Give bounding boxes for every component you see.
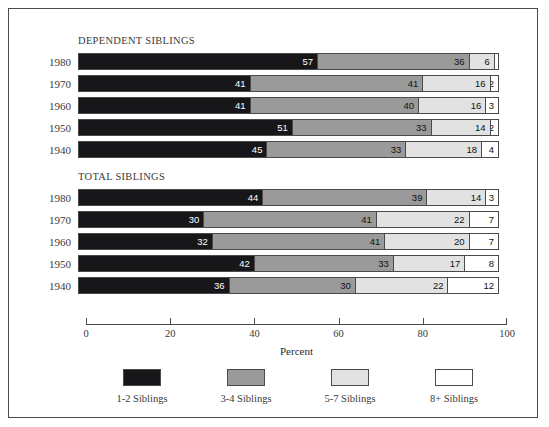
bar-segment: 16 (423, 75, 490, 92)
bar-segment: 41 (78, 75, 251, 92)
legend-item[interactable]: 1-2 Siblings (90, 369, 194, 404)
stacked-bar: 4439143 (78, 189, 499, 206)
stacked-bar: 3041227 (78, 211, 499, 228)
panel-title-total-siblings: TOTAL SIBLINGS (78, 171, 165, 182)
x-axis-tick-label: 20 (165, 328, 176, 339)
legend-swatch (435, 369, 473, 386)
bar-segment-value: 30 (340, 281, 355, 291)
x-axis-tick (86, 318, 87, 324)
figure: DEPENDENT SIBLINGS 198057366119704141162… (0, 0, 549, 427)
bar-segment-value: 6 (484, 57, 493, 67)
bar-segment-value: 30 (189, 215, 204, 225)
bar-segment: 8 (465, 255, 499, 272)
bar-segment-value: 17 (450, 259, 465, 269)
bar-segment: 33 (255, 255, 394, 272)
bar-segment: 36 (78, 277, 230, 294)
legend-swatch (123, 369, 161, 386)
bar-segment-value: 41 (408, 79, 423, 89)
bar-row: 194036302212 (78, 277, 499, 294)
bar-segment-value: 22 (433, 281, 448, 291)
stacked-bar: 4233178 (78, 255, 499, 272)
bar-row-year-label: 1980 (49, 192, 71, 204)
bar-segment: 20 (385, 233, 469, 250)
bar-segment: 4 (482, 141, 499, 158)
bar-segment-value: 1 (495, 57, 498, 67)
legend-item[interactable]: 3-4 Siblings (194, 369, 298, 404)
stacked-bar: 4141162 (78, 75, 499, 92)
bar-segment-value: 33 (378, 259, 393, 269)
legend-item[interactable]: 8+ Siblings (402, 369, 506, 404)
bar-segment-value: 36 (214, 281, 229, 291)
bar-row: 19804439143 (78, 189, 499, 206)
bar-segment: 33 (293, 119, 432, 136)
bar-segment: 41 (251, 75, 424, 92)
bar-segment: 12 (448, 277, 499, 294)
bar-segment: 39 (263, 189, 427, 206)
bar-segment: 30 (230, 277, 356, 294)
legend-label: 3-4 Siblings (194, 393, 298, 404)
bar-row-year-label: 1950 (49, 258, 71, 270)
bar-row-year-label: 1980 (49, 56, 71, 68)
bar-segment-value: 3 (489, 101, 498, 111)
x-axis-tick-label: 0 (83, 328, 88, 339)
bar-segment: 57 (78, 53, 318, 70)
x-axis-tick-label: 100 (499, 328, 515, 339)
bar-segment: 22 (356, 277, 449, 294)
x-axis-tick-label: 40 (249, 328, 260, 339)
stacked-bar: 4140163 (78, 97, 499, 114)
bar-segment-value: 39 (412, 193, 427, 203)
bar-segment: 2 (491, 119, 499, 136)
x-axis-tick (506, 318, 507, 324)
bar-row-year-label: 1940 (49, 144, 71, 156)
bar-segment: 14 (432, 119, 491, 136)
bar-segment-value: 41 (235, 79, 250, 89)
bar-row-year-label: 1960 (49, 236, 71, 248)
stacked-bar: 573661 (78, 53, 499, 70)
bar-segment-value: 16 (475, 79, 490, 89)
bar-segment: 36 (318, 53, 470, 70)
bar-row: 1980573661 (78, 53, 499, 70)
bar-segment-value: 42 (239, 259, 254, 269)
stacked-bar: 5133142 (78, 119, 499, 136)
legend-label: 8+ Siblings (402, 393, 506, 404)
x-axis-tick (423, 318, 424, 324)
bar-row: 19704141162 (78, 75, 499, 92)
bar-segment: 41 (213, 233, 386, 250)
bar-segment-value: 41 (361, 215, 376, 225)
bar-segment-value: 41 (235, 101, 250, 111)
legend-swatch (331, 369, 369, 386)
bar-segment-value: 33 (391, 145, 406, 155)
panel-title-dependent-siblings: DEPENDENT SIBLINGS (78, 35, 195, 46)
legend-swatch (227, 369, 265, 386)
bar-segment: 22 (377, 211, 470, 228)
bar-segment: 45 (78, 141, 267, 158)
bar-segment: 18 (406, 141, 482, 158)
bar-segment-value: 36 (454, 57, 469, 67)
x-axis-tick (254, 318, 255, 324)
bar-segment-value: 22 (454, 215, 469, 225)
bar-segment-value: 57 (302, 57, 317, 67)
x-axis: 020406080100 (86, 324, 507, 325)
bar-segment: 17 (394, 255, 466, 272)
legend-label: 5-7 Siblings (298, 393, 402, 404)
stacked-bar: 4533184 (78, 141, 499, 158)
bar-row-year-label: 1940 (49, 280, 71, 292)
bar-segment: 32 (78, 233, 213, 250)
bar-segment: 3 (486, 97, 499, 114)
bar-segment: 2 (491, 75, 499, 92)
bar-row-year-label: 1970 (49, 214, 71, 226)
bar-segment: 40 (251, 97, 419, 114)
legend-item[interactable]: 5-7 Siblings (298, 369, 402, 404)
bar-segment-value: 32 (197, 237, 212, 247)
chart-panel-total-siblings: 1980443914319703041227196032412071950423… (78, 189, 499, 299)
bar-segment: 41 (78, 97, 251, 114)
bar-row: 19603241207 (78, 233, 499, 250)
bar-row: 19505133142 (78, 119, 499, 136)
bar-segment-value: 18 (467, 145, 482, 155)
figure-frame: DEPENDENT SIBLINGS 198057366119704141162… (8, 8, 538, 418)
bar-segment: 51 (78, 119, 293, 136)
bar-row: 19604140163 (78, 97, 499, 114)
bar-segment-value: 4 (489, 145, 498, 155)
bar-segment: 42 (78, 255, 255, 272)
bar-row: 19504233178 (78, 255, 499, 272)
